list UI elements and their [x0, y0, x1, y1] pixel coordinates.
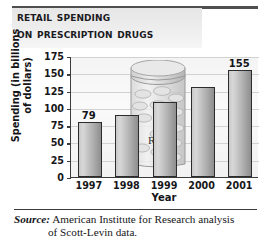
- bar-2000: [191, 87, 215, 177]
- bar-1998: [115, 115, 139, 177]
- source-divider: [14, 209, 257, 210]
- y-axis-tick: [67, 109, 71, 110]
- title-line-1: Retail Spending: [17, 9, 217, 26]
- source-line-1: American Institute for Research analysis: [50, 213, 234, 225]
- bar-1997: [78, 122, 102, 177]
- x-axis-tick-label-2000: 2000: [182, 181, 222, 191]
- x-axis-label: Year: [70, 192, 258, 203]
- x-axis-tick-label-1998: 1998: [106, 181, 146, 191]
- y-axis-label-line-2: of dollars): [21, 57, 32, 114]
- y-axis-tick: [67, 178, 71, 179]
- figure-chart-retail-spending: Retail Spending on Prescription Drugs Sp…: [0, 0, 269, 245]
- y-axis-tick-label: 25: [38, 156, 64, 166]
- y-axis-tick: [67, 126, 71, 127]
- source-label: Source:: [14, 213, 50, 225]
- y-axis-tick: [67, 143, 71, 144]
- bar-value-label-2001: 155: [219, 59, 259, 69]
- y-axis-label: Spending (in billions of dollars): [10, 21, 33, 151]
- source-note: Source: American Institute for Research …: [14, 213, 262, 240]
- y-axis-tick-label: 50: [38, 138, 64, 148]
- y-axis-tick-labels: 0255075100125150175: [36, 57, 64, 178]
- y-axis-tick: [67, 57, 71, 58]
- bar-1999: [153, 102, 177, 177]
- y-axis-tick-label: 75: [38, 121, 64, 131]
- x-axis-tick-label-1997: 1997: [69, 181, 109, 191]
- y-axis-label-line-1: Spending (in billions: [10, 29, 21, 143]
- page-title: Retail Spending on Prescription Drugs: [17, 9, 217, 42]
- y-axis-tick-label: 0: [38, 173, 64, 183]
- y-axis-tick-label: 100: [38, 104, 64, 114]
- y-axis-tick-label: 125: [38, 87, 64, 97]
- y-axis-tick-label: 175: [38, 52, 64, 62]
- y-axis-tick: [67, 161, 71, 162]
- source-line-2: of Scott-Levin data.: [14, 226, 262, 239]
- bar-value-label-1997: 79: [69, 111, 109, 121]
- title-line-2: on Prescription Drugs: [17, 26, 217, 43]
- y-axis-tick: [67, 74, 71, 75]
- x-axis-tick-label-2001: 2001: [219, 181, 259, 191]
- x-axis-tick-label-1999: 1999: [144, 181, 184, 191]
- y-axis-tick-label: 150: [38, 69, 64, 79]
- bar-2001: [228, 70, 252, 177]
- y-axis-tick: [67, 92, 71, 93]
